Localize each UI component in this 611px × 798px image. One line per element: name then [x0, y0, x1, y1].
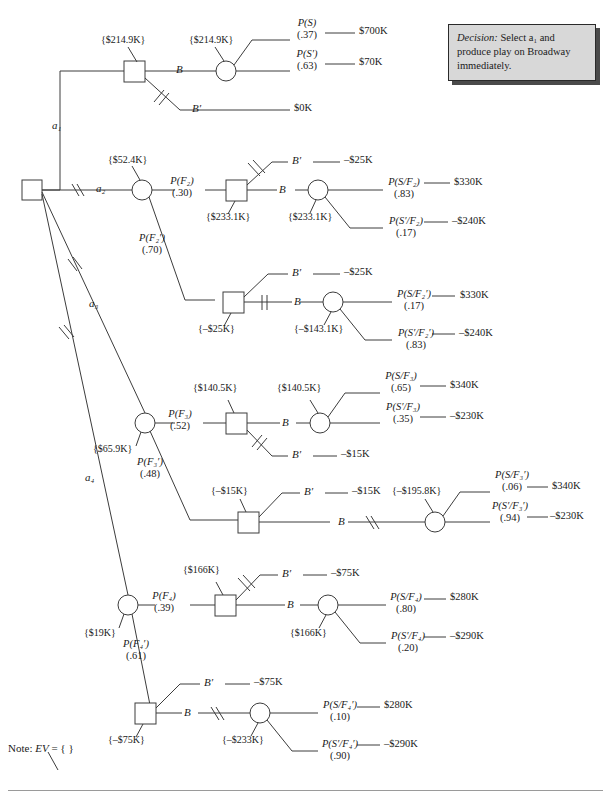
- prune-mark-f2-bprime: [248, 160, 265, 176]
- edge-f3prime-Bprime: [259, 493, 300, 517]
- a1-prob-S: P(S) (.37): [288, 17, 326, 41]
- a3-prob-F3-value: (.52): [158, 420, 202, 432]
- a4-prob-F4-value: (.39): [142, 602, 186, 614]
- a2-chance-ev-leader: [132, 166, 140, 180]
- a3-prob-F3: P(F₃) (.52): [158, 408, 202, 432]
- f2-b-label: B: [279, 184, 286, 195]
- f3prime-prob-Sprime-expr: P(S′/F₃′): [480, 500, 540, 512]
- a1-bprime-label: B′: [192, 103, 201, 114]
- f2-bprime-label: B′: [292, 155, 301, 166]
- f3-prob-Sprime-value: (.35): [375, 413, 431, 425]
- f4-prob-Sprime-expr: P(S′/F₄): [380, 630, 436, 642]
- f4-payoff-Sprime: –$290K: [450, 631, 484, 642]
- a4-prob-F4prime-expr: P(F₄′): [114, 638, 158, 650]
- f4-prob-Sprime: P(S′/F₄) (.20): [380, 630, 436, 654]
- a2-chance-ev: {$52.4K}: [108, 155, 147, 165]
- footnote-prefix: Note:: [8, 742, 32, 754]
- f4prime-bprime-label: B′: [204, 677, 213, 688]
- f4prime-decision-node: [135, 703, 156, 724]
- edge-f2-Sprime: [325, 197, 383, 228]
- f3prime-chance-node: [425, 512, 445, 532]
- f2-payoff-S: $330K: [454, 177, 483, 188]
- a1-prob-Sprime-value: (.63): [288, 60, 326, 72]
- f3-prob-Sprime: P(S′/F₃) (.35): [375, 401, 431, 425]
- footnote-equals: = { }: [51, 742, 73, 754]
- f3prime-bprime-payoff: –$15K: [352, 486, 381, 497]
- f4-prob-Sprime-value: (.20): [380, 642, 436, 654]
- f4prime-b-label: B: [184, 707, 191, 718]
- footnote-slash: [48, 752, 58, 770]
- f4-bprime-payoff: –$75K: [331, 568, 360, 579]
- a3-chance-ev: {$65.9K}: [93, 444, 132, 454]
- f3prime-prob-S-expr: P(S/F₃′): [484, 469, 540, 481]
- a1-b-label: B: [176, 64, 183, 75]
- f4prime-chance-ev: {–$233K}: [222, 735, 264, 745]
- f3prime-b-label: B: [338, 516, 345, 527]
- f3prime-chance-ev: {–$195.8K}: [392, 486, 441, 496]
- f4-payoff-S: $280K: [450, 592, 479, 603]
- a2-prob-F2-expr: P(F₂): [160, 175, 204, 187]
- f2prime-decision-node: [223, 292, 244, 313]
- f3-decision-ev: {$140.5K}: [193, 383, 237, 393]
- f3-chance-ev: {$140.5K}: [277, 383, 321, 393]
- f4-decision-ev: {$166K}: [183, 565, 220, 575]
- a3-prob-F3prime-expr: P(F₃′): [128, 456, 172, 468]
- a4-prob-F4: P(F₄) (.39): [142, 590, 186, 614]
- f3-bprime-payoff: –$15K: [341, 449, 370, 460]
- edge-f3-S: [328, 393, 380, 417]
- f3prime-prob-Sprime-value: (.94): [480, 512, 540, 524]
- f4-bprime-label: B′: [282, 568, 291, 579]
- f4-b-label: B: [287, 599, 294, 610]
- f2-decision-node: [226, 180, 247, 201]
- f2prime-prob-S-expr: P(S/F₂′): [386, 288, 442, 300]
- a2-prob-F2-value: (.30): [160, 187, 204, 199]
- f4prime-prob-S: P(S/F₄′) (.10): [312, 699, 368, 723]
- a1-chance-ev: {$214.9K}: [189, 35, 233, 45]
- alt-label-a2: a₂: [96, 183, 105, 194]
- f3-b-label: B: [282, 417, 289, 428]
- a1-payoff-Sprime: $70K: [359, 57, 382, 68]
- f4-prob-S-expr: P(S/F₄): [380, 591, 432, 603]
- f3-prob-Sprime-expr: P(S′/F₃): [375, 401, 431, 413]
- alt-label-a3: a₃: [89, 298, 98, 309]
- edge-f4-Bprime: [236, 575, 278, 600]
- f3-prob-S-value: (.65): [375, 382, 427, 394]
- f3prime-prob-Sprime: P(S′/F₃′) (.94): [480, 500, 540, 524]
- f2-prob-S-value: (.83): [378, 188, 430, 200]
- alt-label-a1: a₁: [52, 120, 61, 131]
- f2prime-chance-ev: {–$143.1K}: [294, 324, 343, 334]
- f3-prob-S: P(S/F₃) (.65): [375, 370, 427, 394]
- a1-decision-ev-leader: [128, 47, 137, 62]
- a1-payoff-S: $700K: [359, 26, 388, 37]
- f2prime-prob-S: P(S/F₂′) (.17): [386, 288, 442, 312]
- a1-chance-node: [216, 61, 236, 81]
- f3prime-decision-ev: {–$15K}: [211, 486, 248, 496]
- f3prime-payoff-Sprime: –$230K: [550, 511, 584, 522]
- f4prime-payoff-Sprime: –$290K: [384, 739, 418, 750]
- f2-chance-ev: {$233.1K}: [288, 212, 332, 222]
- f3prime-prob-S: P(S/F₃′) (.06): [484, 469, 540, 493]
- a4-prob-F4prime-value: (.61): [114, 650, 158, 662]
- f3-decision-ev-leader: [228, 400, 234, 413]
- decision-tree-figure: a₁ a₂ a₃ a₄ {$214.9K} {$214.9K} B B′ $0K…: [0, 0, 611, 798]
- f2prime-payoff-S: $330K: [460, 290, 489, 301]
- a1-prob-Sprime-expr: P(S′): [288, 48, 326, 60]
- f4prime-prob-Sprime: P(S′/F₄′) (.90): [310, 738, 370, 762]
- tree-lines: [0, 0, 611, 798]
- edge-f4prime-Bprime: [156, 684, 200, 708]
- a2-prob-F2prime-expr: P(F₂′): [130, 232, 174, 244]
- f4prime-decision-ev: {–$75K}: [108, 735, 145, 745]
- a1-prob-Sprime: P(S′) (.63): [288, 48, 326, 72]
- a1-prob-S-expr: P(S): [288, 17, 326, 29]
- a3-prob-F3prime-value: (.48): [128, 468, 172, 480]
- f3prime-payoff-S: $340K: [552, 481, 581, 492]
- f2prime-bprime-payoff: –$25K: [344, 267, 373, 278]
- edge-root-a4: [42, 194, 128, 595]
- f4-decision-node: [215, 595, 236, 616]
- a2-prob-F2: P(F₂) (.30): [160, 175, 204, 199]
- f2prime-prob-S-value: (.17): [386, 300, 442, 312]
- edge-f2prime-Sprime: [340, 309, 392, 340]
- a4-chance-node: [118, 595, 138, 615]
- f3prime-chance-ev-leader: [425, 499, 433, 512]
- f3-payoff-Sprime: –$230K: [450, 411, 484, 422]
